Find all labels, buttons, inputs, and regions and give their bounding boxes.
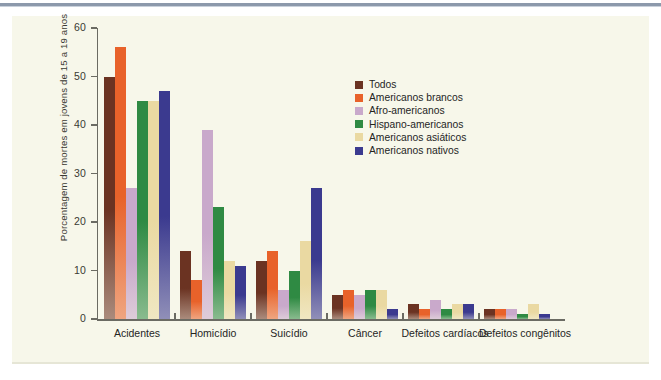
y-tick-label: 40: [74, 118, 86, 130]
bar: [517, 314, 528, 319]
bar: [539, 314, 550, 319]
x-axis-group-separator: [174, 313, 175, 320]
x-axis-group-separator: [478, 313, 479, 320]
legend-item[interactable]: Todos: [355, 78, 555, 91]
bar: [387, 309, 398, 319]
bar: [104, 77, 115, 320]
bar: [235, 266, 246, 319]
bar: [256, 261, 267, 319]
legend-swatch-icon: [355, 81, 363, 89]
legend-swatch-icon: [355, 147, 363, 155]
top-divider-shadow: [0, 6, 661, 7]
y-tick-mark: [91, 270, 97, 271]
y-axis-line: [97, 28, 98, 320]
legend-swatch-icon: [355, 94, 363, 102]
bar: [343, 290, 354, 319]
legend-item-label: Americanos asiáticos: [369, 131, 466, 144]
legend-swatch-icon: [355, 120, 363, 128]
bar: [126, 188, 137, 319]
bar: [267, 251, 278, 319]
bar: [289, 271, 300, 320]
bar: [300, 241, 311, 319]
bar: [224, 261, 235, 319]
y-tick-label: 10: [74, 264, 86, 276]
figure-container: Porcentagem de mortes em jovens de 15 a …: [0, 0, 661, 380]
legend-item[interactable]: Americanos nativos: [355, 144, 555, 157]
x-axis-category-label: Defeitos congênitos: [465, 327, 585, 339]
bar: [311, 188, 322, 319]
legend-item-label: Afro-americanos: [369, 104, 445, 117]
x-axis-group-separator: [402, 313, 403, 320]
y-tick-label: 60: [74, 21, 86, 33]
bar: [495, 309, 506, 319]
y-tick-mark: [91, 318, 97, 319]
bar: [115, 47, 126, 319]
bar: [376, 290, 387, 319]
legend-item[interactable]: Americanos asiáticos: [355, 131, 555, 144]
bar: [148, 101, 159, 319]
y-tick-mark: [91, 221, 97, 222]
bar: [159, 91, 170, 319]
bar: [354, 295, 365, 319]
bar: [441, 309, 452, 319]
legend-item[interactable]: Americanos brancos: [355, 91, 555, 104]
y-axis-title: Porcentagem de mortes em jovens de 15 a …: [58, 3, 69, 253]
bar: [191, 280, 202, 319]
legend-item-label: Todos: [369, 78, 396, 91]
y-tick-label: 30: [74, 167, 86, 179]
bar: [430, 300, 441, 319]
bar: [180, 251, 191, 319]
y-tick-mark: [91, 173, 97, 174]
y-tick-mark: [91, 124, 97, 125]
legend-swatch-icon: [355, 107, 363, 115]
bar: [463, 304, 474, 319]
bar: [278, 290, 289, 319]
bar: [365, 290, 376, 319]
y-tick-label: 20: [74, 215, 86, 227]
bar: [408, 304, 419, 319]
bar: [332, 295, 343, 319]
bar: [528, 304, 539, 319]
x-axis-group-separator: [326, 313, 327, 320]
bar: [202, 130, 213, 319]
legend-item-label: Hispano-americanos: [369, 118, 463, 131]
legend-item-label: Americanos nativos: [369, 144, 459, 157]
y-tick-mark: [91, 76, 97, 77]
bar: [419, 309, 430, 319]
x-axis-line: [97, 319, 565, 321]
legend-swatch-icon: [355, 133, 363, 141]
bar: [137, 101, 148, 319]
legend-item[interactable]: Hispano-americanos: [355, 118, 555, 131]
y-tick-label: 50: [74, 70, 86, 82]
bar: [213, 207, 224, 319]
bar: [506, 309, 517, 319]
y-tick-mark: [91, 27, 97, 28]
chart-plate-bottom-edge: [12, 362, 649, 364]
y-tick-label: 0: [80, 312, 86, 324]
bar: [484, 309, 495, 319]
legend-item-label: Americanos brancos: [369, 91, 463, 104]
bar: [452, 304, 463, 319]
legend: TodosAmericanos brancosAfro-americanosHi…: [355, 78, 555, 157]
x-axis-group-separator: [250, 313, 251, 320]
legend-item[interactable]: Afro-americanos: [355, 104, 555, 117]
